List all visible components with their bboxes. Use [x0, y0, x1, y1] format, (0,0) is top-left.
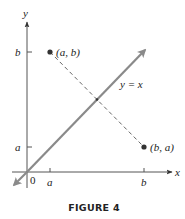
figure-caption: FIGURE 4 [68, 202, 120, 213]
reflection-diagram: y x 0 a b b a (a, b) (b, a) y = x FIGURE… [0, 0, 185, 219]
point-a-b-label: (a, b) [56, 46, 80, 59]
point-b-a-label: (b, a) [150, 141, 174, 154]
y-tick-label-b: b [15, 46, 21, 58]
line-y-equals-x-label: y = x [119, 78, 143, 90]
y-axis-label: y [22, 7, 28, 19]
line-y-equals-x-tail [14, 172, 27, 185]
y-tick-label-a: a [15, 141, 21, 153]
x-tick-label-a: a [47, 176, 53, 188]
x-axis-label: x [174, 166, 180, 178]
x-tick-label-b: b [141, 176, 147, 188]
line-y-equals-x [27, 50, 145, 172]
point-b-a [141, 144, 146, 149]
origin-label: 0 [30, 174, 36, 186]
point-a-b [47, 49, 52, 54]
midpoint-dot [96, 98, 99, 101]
